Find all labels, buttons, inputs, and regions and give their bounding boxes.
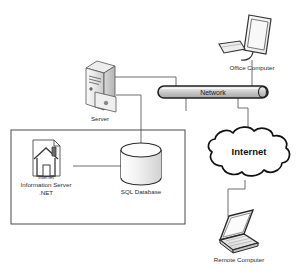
laptop-icon xyxy=(220,210,258,253)
sql-database-node[interactable]: SQL Database xyxy=(121,143,162,195)
database-cylinder-icon xyxy=(121,143,161,185)
network-diagram: Server Network Offic xyxy=(0,0,308,272)
iis-node[interactable]: Internet Information Server .NET xyxy=(21,140,72,196)
network-label: Network xyxy=(200,89,226,96)
internet-label: Internet xyxy=(232,146,268,157)
server-node[interactable]: Server xyxy=(86,61,116,122)
remote-computer-label: Remote Computer xyxy=(214,256,265,263)
iis-label-line1: Information Server xyxy=(21,181,72,188)
connection-server-to-database xyxy=(116,95,141,146)
server-tower-icon xyxy=(86,61,116,112)
iis-label-line2: .NET xyxy=(39,189,53,196)
office-computer-label: Office Computer xyxy=(230,64,275,71)
internet-node[interactable]: Internet xyxy=(208,127,289,176)
desktop-monitor-icon xyxy=(219,15,271,60)
diagram-canvas: Server Network Offic xyxy=(0,0,308,272)
sql-database-label: SQL Database xyxy=(121,188,162,195)
office-computer-node[interactable]: Office Computer xyxy=(219,15,274,71)
remote-computer-node[interactable]: Remote Computer xyxy=(214,210,265,263)
server-label: Server xyxy=(91,115,109,122)
connection-internet-to-remote xyxy=(228,180,245,217)
connection-server-to-network xyxy=(114,77,176,86)
network-node[interactable]: Network xyxy=(158,86,268,98)
iis-badge-label: Internet xyxy=(38,175,54,180)
house-document-icon xyxy=(33,140,60,176)
